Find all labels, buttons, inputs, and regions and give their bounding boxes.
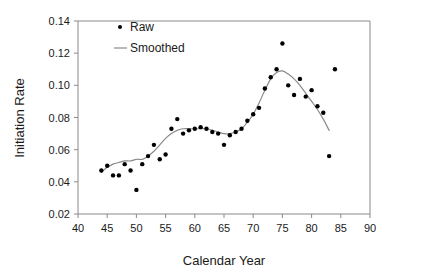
- raw-data-point: [269, 75, 273, 79]
- raw-data-point: [134, 188, 138, 192]
- raw-data-point: [298, 77, 302, 81]
- raw-data-point: [216, 131, 220, 135]
- raw-data-point: [99, 168, 103, 172]
- y-tick-label: 0.04: [49, 176, 70, 188]
- raw-data-point: [292, 93, 296, 97]
- chart-canvas: 0.020.040.060.080.100.120.14 40455055606…: [0, 0, 421, 275]
- raw-data-point: [228, 133, 232, 137]
- raw-data-point: [257, 106, 261, 110]
- x-tick-label: 85: [335, 222, 347, 234]
- x-tick-label: 90: [364, 222, 376, 234]
- y-tick-label: 0.10: [49, 79, 70, 91]
- raw-data-point: [146, 154, 150, 158]
- x-tick-label: 80: [305, 222, 317, 234]
- raw-data-point: [163, 152, 167, 156]
- raw-data-point: [128, 168, 132, 172]
- raw-data-point: [304, 94, 308, 98]
- raw-data-point: [169, 127, 173, 131]
- y-tick-label: 0.08: [49, 112, 70, 124]
- raw-data-point: [193, 127, 197, 131]
- raw-data-point: [321, 110, 325, 114]
- legend-smoothed-label: Smoothed: [130, 41, 185, 55]
- raw-data-point: [315, 104, 319, 108]
- x-tick-label: 65: [218, 222, 230, 234]
- raw-data-point: [140, 162, 144, 166]
- x-tick-label: 70: [247, 222, 259, 234]
- raw-data-point: [175, 117, 179, 121]
- raw-data-point: [210, 130, 214, 134]
- raw-data-point: [105, 164, 109, 168]
- raw-data-point: [245, 119, 249, 123]
- raw-data-point: [111, 173, 115, 177]
- x-axis-title: Calendar Year: [183, 253, 266, 268]
- y-tick-label: 0.02: [49, 208, 70, 220]
- x-tick-label: 55: [159, 222, 171, 234]
- chart-background: [0, 0, 421, 275]
- raw-data-point: [274, 67, 278, 71]
- raw-data-point: [280, 41, 284, 45]
- x-tick-label: 45: [101, 222, 113, 234]
- y-tick-label: 0.12: [49, 47, 70, 59]
- x-tick-label: 50: [130, 222, 142, 234]
- raw-data-point: [204, 127, 208, 131]
- raw-data-point: [123, 162, 127, 166]
- x-tick-label: 60: [189, 222, 201, 234]
- chart-figure: 0.020.040.060.080.100.120.14 40455055606…: [0, 0, 421, 275]
- raw-data-point: [198, 125, 202, 129]
- raw-data-point: [117, 173, 121, 177]
- x-tick-label: 40: [72, 222, 84, 234]
- raw-data-point: [309, 88, 313, 92]
- raw-data-point: [333, 67, 337, 71]
- raw-data-point: [222, 143, 226, 147]
- raw-data-point: [286, 83, 290, 87]
- raw-data-point: [158, 157, 162, 161]
- raw-data-point: [181, 131, 185, 135]
- raw-data-point: [187, 128, 191, 132]
- y-tick-label: 0.06: [49, 144, 70, 156]
- raw-data-point: [239, 127, 243, 131]
- x-tick-label: 75: [276, 222, 288, 234]
- y-tick-label: 0.14: [49, 15, 70, 27]
- raw-data-point: [152, 143, 156, 147]
- legend-raw-label: Raw: [130, 20, 154, 34]
- raw-data-point: [327, 154, 331, 158]
- legend-raw-marker: [118, 25, 122, 29]
- raw-data-point: [233, 130, 237, 134]
- raw-data-point: [251, 112, 255, 116]
- raw-data-point: [263, 86, 267, 90]
- y-axis-title: Initiation Rate: [12, 78, 27, 158]
